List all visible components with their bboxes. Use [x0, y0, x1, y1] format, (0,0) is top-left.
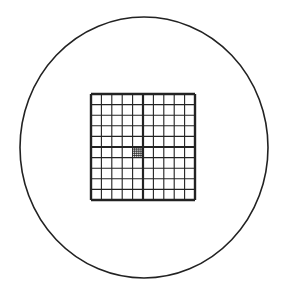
counting-grid	[91, 94, 195, 200]
fine-subdivided-cell	[133, 147, 143, 158]
reticle-diagram	[0, 0, 282, 287]
